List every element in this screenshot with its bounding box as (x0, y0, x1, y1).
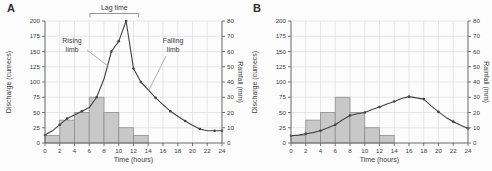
rising-limb-label: Rising (62, 37, 82, 45)
x-axis-tick-label: 18 (174, 147, 181, 154)
right-axis-tick-label: 50 (227, 63, 234, 70)
rising-limb-leader-line (87, 50, 108, 66)
lag-time-bracket (90, 14, 139, 18)
falling-limb-label: Falling (163, 37, 184, 45)
rainfall-bar (45, 135, 60, 143)
right-axis-tick-label: 60 (227, 48, 234, 55)
left-axis-tick-label: 200 (30, 17, 41, 24)
x-axis-tick-label: 2 (58, 147, 62, 154)
right-axis-title: Rainfall (mm) (236, 61, 244, 103)
right-axis-tick-label: 80 (227, 17, 234, 24)
x-axis-tick-label: 22 (204, 147, 211, 154)
x-axis-tick-label: 14 (391, 147, 398, 154)
hydrograph-figure: A B 025507510012515017520001020304050607… (0, 0, 492, 171)
x-axis-tick-label: 18 (420, 147, 427, 154)
right-axis-title: Rainfall (mm) (482, 61, 490, 103)
x-axis-tick-label: 14 (145, 147, 152, 154)
data-point-marker (437, 111, 440, 114)
right-axis-tick-label: 20 (473, 109, 480, 116)
x-axis-tick-label: 4 (319, 147, 323, 154)
left-axis-tick-label: 75 (279, 93, 286, 100)
rainfall-bar (75, 113, 90, 144)
falling-limb-label: limb (167, 46, 180, 53)
right-axis-tick-label: 30 (227, 93, 234, 100)
x-axis-tick-label: 6 (88, 147, 92, 154)
left-axis-tick-label: 25 (279, 124, 286, 131)
left-axis-title: Discharge (cumecs) (251, 51, 259, 113)
left-axis-tick-label: 150 (30, 48, 41, 55)
right-axis-tick-label: 50 (473, 63, 480, 70)
x-axis-tick-label: 2 (304, 147, 308, 154)
data-point-marker (422, 98, 425, 101)
rising-limb-label: limb (66, 46, 79, 53)
right-axis-tick-label: 30 (473, 93, 480, 100)
data-point-marker (363, 111, 366, 114)
x-axis-tick-label: 8 (348, 147, 352, 154)
lag-time-label: Lag time (101, 4, 128, 12)
x-axis-tick-label: 24 (219, 147, 226, 154)
x-axis-tick-label: 0 (289, 147, 293, 154)
right-axis-tick-label: 20 (227, 109, 234, 116)
data-point-marker (349, 114, 352, 117)
rainfall-bar (291, 135, 306, 143)
x-axis-tick-label: 12 (376, 147, 383, 154)
rainfall-bar (380, 135, 395, 143)
left-axis-tick-label: 100 (276, 78, 287, 85)
left-axis-tick-label: 150 (276, 48, 287, 55)
data-point-marker (319, 130, 322, 133)
falling-limb-leader-line (149, 56, 166, 90)
left-axis-tick-label: 100 (30, 78, 41, 85)
panel-b-label: B (253, 2, 261, 14)
rainfall-bar (104, 113, 119, 144)
data-point-marker (132, 67, 135, 70)
x-axis-title: Time (hours) (360, 156, 399, 164)
right-axis-tick-label: 70 (473, 32, 480, 39)
right-axis-tick-label: 10 (473, 124, 480, 131)
x-axis-tick-label: 0 (43, 147, 47, 154)
x-axis-tick-label: 6 (334, 147, 338, 154)
data-point-marker (408, 95, 411, 98)
x-axis-tick-label: 20 (435, 147, 442, 154)
rainfall-bar (350, 113, 365, 144)
data-point-marker (125, 20, 128, 23)
left-axis-tick-label: 200 (276, 17, 287, 24)
x-axis-tick-label: 20 (189, 147, 196, 154)
right-axis-tick-label: 0 (227, 139, 231, 146)
x-axis-tick-label: 8 (102, 147, 106, 154)
x-axis-tick-label: 10 (115, 147, 122, 154)
left-axis-tick-label: 25 (33, 124, 40, 131)
x-axis-tick-label: 16 (406, 147, 413, 154)
data-point-marker (378, 106, 381, 109)
left-axis-tick-label: 50 (279, 109, 286, 116)
data-point-marker (169, 110, 172, 113)
x-axis-tick-label: 10 (361, 147, 368, 154)
data-point-marker (334, 123, 337, 126)
data-point-marker (81, 110, 84, 113)
panel-a-label: A (7, 2, 15, 14)
data-point-marker (213, 130, 216, 133)
data-point-marker (452, 120, 455, 123)
left-axis-tick-label: 0 (37, 139, 41, 146)
data-point-marker (58, 123, 61, 126)
data-point-marker (184, 120, 187, 123)
left-axis-title: Discharge (cumecs) (5, 51, 13, 113)
x-axis-tick-label: 4 (73, 147, 77, 154)
data-point-marker (95, 96, 98, 99)
data-point-marker (66, 117, 69, 120)
x-axis-tick-label: 22 (450, 147, 457, 154)
left-axis-tick-label: 125 (276, 63, 287, 70)
rainfall-bar (134, 135, 149, 143)
data-point-marker (393, 100, 396, 103)
right-axis-tick-label: 0 (473, 139, 477, 146)
left-axis-tick-label: 50 (33, 109, 40, 116)
data-point-marker (154, 97, 157, 100)
data-point-marker (117, 40, 120, 43)
right-axis-tick-label: 80 (473, 17, 480, 24)
rainfall-bar (365, 128, 380, 143)
data-point-marker (140, 81, 143, 84)
right-axis-tick-label: 40 (227, 78, 234, 85)
x-axis-tick-label: 12 (130, 147, 137, 154)
left-axis-tick-label: 0 (283, 139, 287, 146)
rainfall-bar (119, 128, 134, 143)
right-axis-tick-label: 70 (227, 32, 234, 39)
